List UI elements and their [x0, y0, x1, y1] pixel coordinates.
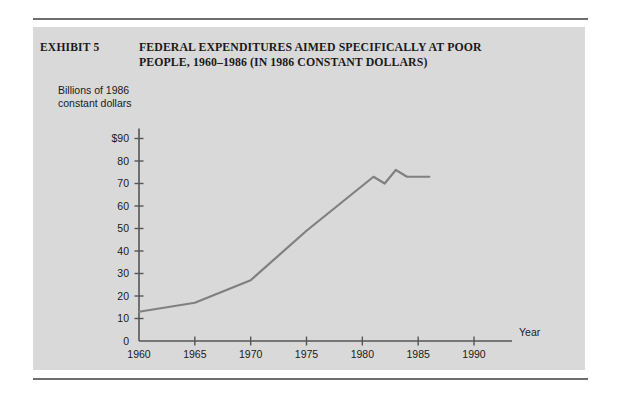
y-axis-tick-label: 40	[117, 245, 129, 257]
x-axis-tick-label: 1980	[351, 348, 375, 360]
y-axis-tick-label: 80	[117, 155, 129, 167]
x-axis-tick-label: 1960	[127, 348, 151, 360]
y-axis-tick-label: 30	[117, 267, 129, 279]
y-axis-tick-label: 70	[117, 177, 129, 189]
data-series-line	[139, 170, 429, 312]
chart-canvas: 01020304050607080$9019601965197019751980…	[0, 0, 618, 396]
x-axis-tick-label: 1970	[239, 348, 263, 360]
x-axis-label: Year	[519, 326, 541, 338]
y-axis-tick-label: 60	[117, 200, 129, 212]
line-chart: 01020304050607080$9019601965197019751980…	[0, 0, 618, 396]
y-axis-tick-label: 10	[117, 312, 129, 324]
y-axis-tick-label: 0	[123, 335, 129, 347]
x-axis-tick-label: 1985	[406, 348, 430, 360]
x-axis-tick-label: 1975	[295, 348, 319, 360]
y-axis-tick-label: 20	[117, 290, 129, 302]
y-axis-tick-label: 50	[117, 222, 129, 234]
y-axis-tick-label: $90	[111, 132, 129, 144]
x-axis-tick-label: 1990	[462, 348, 486, 360]
x-axis-tick-label: 1965	[183, 348, 207, 360]
